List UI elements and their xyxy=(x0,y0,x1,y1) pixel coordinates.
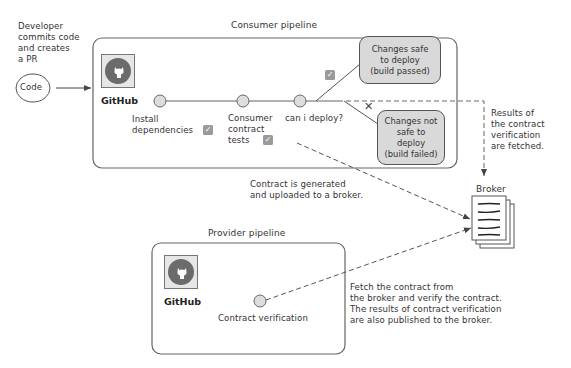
check-icon: ✓ xyxy=(325,70,335,80)
outcome-safe-label: Changes safe to deploy (build passed) xyxy=(370,44,429,77)
github-label: GitHub xyxy=(164,296,201,307)
broker-label: Broker xyxy=(476,184,506,195)
step-consumer-tests-node xyxy=(237,95,249,107)
outcome-safe-box: Changes safe to deploy (build passed) xyxy=(359,36,441,84)
broker-icon xyxy=(472,196,514,248)
github-label: GitHub xyxy=(101,95,138,106)
contract-upload-note: Contract is generated and uploaded to a … xyxy=(250,179,363,201)
github-logo-icon xyxy=(164,255,198,289)
step-contract-verification-label: Contract verification xyxy=(218,313,308,324)
step-can-i-deploy-node xyxy=(294,95,306,107)
developer-note: Developer commits code and creates a PR xyxy=(18,21,80,65)
outcome-not-safe-box: Changes not safe to deploy (build failed… xyxy=(377,110,445,165)
branch-safe-line xyxy=(316,64,360,101)
check-icon: ✓ xyxy=(203,125,213,135)
results-fetched-note: Results of the contract verification are… xyxy=(491,108,545,152)
consumer-pipeline-title: Consumer pipeline xyxy=(231,20,317,31)
provider-fetch-note: Fetch the contract from the broker and v… xyxy=(350,282,502,326)
outcome-not-safe-label: Changes not safe to deploy (build failed… xyxy=(385,116,438,160)
step-can-i-deploy-label: can i deploy? xyxy=(285,113,343,124)
step-contract-verification-node xyxy=(254,295,266,307)
github-logo-icon xyxy=(101,54,135,88)
step-install-label: Install dependencies xyxy=(132,114,193,136)
fail-x-icon: ✕ xyxy=(364,101,373,112)
code-node-label: Code xyxy=(20,82,42,93)
step-install-node xyxy=(154,95,166,107)
check-icon: ✓ xyxy=(263,135,273,145)
provider-pipeline-title: Provider pipeline xyxy=(208,228,285,239)
